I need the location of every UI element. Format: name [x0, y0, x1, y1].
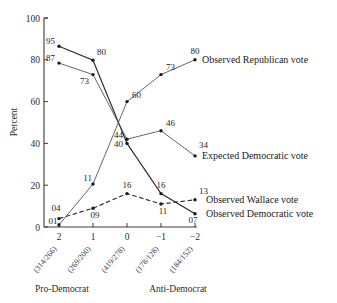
- x-sublabels: (314/266) (269/200) (419/278) (178/128) …: [31, 244, 194, 274]
- label-wal-04: 04: [52, 203, 62, 213]
- expected-democratic-point: [125, 138, 128, 141]
- observed-democratic-point: [91, 59, 94, 62]
- observed-republican-point: [57, 223, 60, 226]
- label-exp-73: 73: [80, 76, 90, 86]
- observed-republican-point: [159, 73, 162, 76]
- legend-observed-republican: Observed Republican vote: [202, 54, 309, 65]
- label-rep-80: 80: [191, 46, 201, 56]
- category-label-anti-democrat: Anti-Democrat: [149, 284, 207, 294]
- x-sublabel-3: (419/278): [99, 244, 126, 274]
- label-dem-95: 95: [46, 36, 56, 46]
- category-label-pro-democrat: Pro-Democrat: [35, 284, 89, 294]
- observed-wallace-point: [125, 192, 128, 195]
- y-tick-labels: 100 80 60 40 20 0: [26, 14, 41, 233]
- label-rep-60: 60: [132, 90, 142, 100]
- label-exp-87: 87: [46, 53, 56, 63]
- x-label-2: 2: [57, 232, 62, 242]
- legend-observed-democratic: Observed Democratic vote: [206, 208, 314, 219]
- observed-democratic-point: [125, 142, 128, 145]
- label-wal-16: 16: [123, 180, 133, 190]
- expected-democratic-point: [57, 61, 60, 64]
- observed-democratic-point: [159, 192, 162, 195]
- x-label-minus1: −1: [156, 232, 166, 242]
- label-rep-11: 11: [83, 173, 92, 183]
- expected-democratic-point: [193, 154, 196, 157]
- label-dem-80: 80: [97, 47, 107, 57]
- y-label-60: 60: [31, 97, 41, 107]
- observed-republican-point: [193, 58, 196, 61]
- expected-democratic-point: [91, 73, 94, 76]
- label-dem-40: 40: [114, 139, 124, 149]
- label-wal-09: 09: [91, 210, 101, 220]
- label-rep-73: 73: [166, 62, 176, 72]
- observed-wallace-point: [193, 198, 196, 201]
- x-label-1: 1: [91, 232, 96, 242]
- observed-wallace-line: [59, 194, 195, 219]
- legend-observed-wallace: Observed Wallace vote: [206, 194, 299, 205]
- observed-republican-point: [125, 100, 128, 103]
- series-observed-wallace: [57, 192, 196, 220]
- expected-democratic-point: [159, 129, 162, 132]
- y-axis-title: Percent: [9, 107, 19, 136]
- label-exp-46: 46: [166, 118, 176, 128]
- legend-group: Observed Republican vote Expected Democr…: [202, 54, 314, 219]
- y-label-0: 0: [35, 223, 40, 233]
- y-label-80: 80: [31, 55, 41, 65]
- x-label-0: 0: [125, 232, 130, 242]
- legend-expected-democratic: Expected Democratic vote: [202, 150, 309, 161]
- label-exp-44: 44: [114, 130, 124, 140]
- chart-figure: 100 80 60 40 20 0 Percent 2 1 0 −1 −2 (3…: [0, 0, 337, 303]
- label-dem-16: 16: [157, 180, 167, 190]
- x-sublabel-2: (269/200): [65, 244, 92, 274]
- x-sublabel-5: (184/152): [167, 244, 194, 274]
- label-rep-01: 01: [49, 216, 58, 226]
- x-tick-labels: 2 1 0 −1 −2: [57, 232, 201, 242]
- line-chart-svg: 100 80 60 40 20 0 Percent 2 1 0 −1 −2 (3…: [0, 0, 337, 303]
- x-sublabel-1: (314/266): [31, 244, 58, 274]
- label-exp-34: 34: [199, 140, 209, 150]
- observed-wallace-point: [57, 217, 60, 220]
- observed-democratic-point: [57, 45, 60, 48]
- label-dem-07: 07: [189, 215, 199, 225]
- x-label-minus2: −2: [190, 232, 200, 242]
- y-label-100: 100: [26, 14, 41, 24]
- y-label-40: 40: [31, 139, 41, 149]
- x-sublabel-4: (178/128): [133, 244, 160, 274]
- label-wal-11: 11: [159, 206, 168, 216]
- y-label-20: 20: [31, 181, 41, 191]
